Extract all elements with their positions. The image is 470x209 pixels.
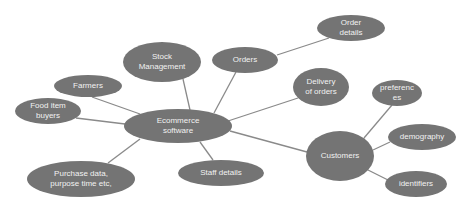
- node-label: purpose time etc,: [50, 179, 111, 188]
- node-staff: Staff details: [178, 160, 264, 186]
- node-label: software: [163, 126, 194, 135]
- node-label: preferenc: [380, 83, 414, 92]
- node-ecommerce: Ecommercesoftware: [124, 109, 232, 143]
- node-order-details: Orderdetails: [317, 15, 385, 41]
- node-label: identifiers: [399, 179, 433, 188]
- node-label: Farmers: [73, 81, 103, 90]
- connector-ecommerce-staff: [200, 142, 213, 160]
- mind-map-diagram: EcommercesoftwareStockManagementOrdersOr…: [0, 0, 470, 209]
- node-label: of orders: [305, 87, 337, 96]
- node-identifiers: identifiers: [385, 171, 447, 197]
- node-label: Delivery: [307, 77, 336, 86]
- connector-ecommerce-food_buyers: [76, 118, 125, 124]
- connector-ecommerce-stock: [183, 79, 190, 110]
- node-delivery: Deliveryof orders: [293, 68, 349, 106]
- node-label: Order: [341, 18, 362, 27]
- node-label: details: [339, 28, 362, 37]
- connector-orders-order_details: [277, 38, 329, 55]
- connector-ecommerce-delivery: [228, 98, 298, 121]
- node-label: demography: [400, 132, 444, 141]
- node-stock: StockManagement: [123, 42, 201, 82]
- node-preferences: preferences: [372, 80, 422, 106]
- node-orders: Orders: [212, 47, 278, 73]
- connector-customers-preferences: [364, 105, 392, 138]
- connector-ecommerce-orders: [214, 72, 236, 113]
- node-label: Customers: [321, 151, 360, 160]
- node-farmers: Farmers: [54, 75, 122, 97]
- node-label: Staff details: [200, 168, 242, 177]
- connector-customers-identifiers: [368, 170, 388, 180]
- node-label: buyers: [36, 111, 60, 120]
- node-label: Orders: [233, 55, 257, 64]
- node-demography: demography: [388, 124, 456, 150]
- connector-ecommerce-purchase: [108, 139, 140, 163]
- node-label: Management: [139, 62, 186, 71]
- node-label: Stock: [152, 52, 173, 61]
- node-label: es: [393, 93, 401, 102]
- connector-ecommerce-farmers: [92, 97, 140, 114]
- node-customers: Customers: [306, 131, 374, 181]
- node-label: Purchase data,: [54, 169, 108, 178]
- node-purchase: Purchase data,purpose time etc,: [27, 161, 135, 197]
- node-food-buyers: Food itembuyers: [15, 98, 81, 124]
- connector-customers-demography: [373, 142, 390, 150]
- node-label: Food item: [30, 101, 66, 110]
- node-label: Ecommerce: [157, 116, 200, 125]
- nodes-layer: EcommercesoftwareStockManagementOrdersOr…: [15, 15, 456, 197]
- connector-ecommerce-customers: [230, 131, 307, 152]
